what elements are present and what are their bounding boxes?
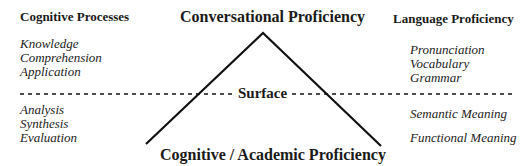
left-above-list: Knowledge Comprehension Application <box>20 37 102 79</box>
list-item: Comprehension <box>20 51 102 65</box>
list-item: Synthesis <box>20 117 77 131</box>
right-above-list: Pronunciation Vocabulary Grammar <box>410 43 485 85</box>
bottom-label: Cognitive / Academic Proficiency <box>160 146 386 164</box>
list-item: Pronunciation <box>410 43 485 57</box>
right-column-header: Language Proficiency <box>393 11 514 27</box>
list-item: Grammar <box>410 71 485 85</box>
list-item: Application <box>20 65 102 79</box>
list-item: Vocabulary <box>410 57 485 71</box>
left-column-header: Cognitive Processes <box>20 9 129 25</box>
list-item: Knowledge <box>20 37 102 51</box>
list-item: Evaluation <box>20 131 77 145</box>
left-below-list: Analysis Synthesis Evaluation <box>20 103 77 145</box>
surface-label: Surface <box>234 85 291 102</box>
right-below-item-semantic: Semantic Meaning <box>410 107 507 121</box>
top-label: Conversational Proficiency <box>180 8 365 26</box>
list-item: Analysis <box>20 103 77 117</box>
right-below-item-functional: Functional Meaning <box>410 131 517 145</box>
